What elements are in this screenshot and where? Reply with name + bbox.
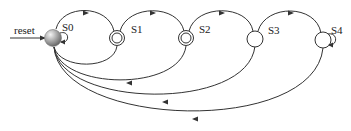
forward-transitions xyxy=(56,10,321,33)
return-arrowheads xyxy=(126,81,198,122)
forward-arrowheads xyxy=(83,11,294,16)
return-transitions xyxy=(54,46,323,111)
state-s1 xyxy=(110,31,125,46)
state-s4-label: S4 xyxy=(331,24,343,36)
reset-label: reset xyxy=(14,24,35,36)
state-s1-label: S1 xyxy=(131,23,143,35)
state-s0-label: S0 xyxy=(62,21,74,33)
state-s3 xyxy=(247,31,263,47)
state-s2 xyxy=(179,31,194,46)
reset-transition xyxy=(10,36,46,41)
state-s2-label: S2 xyxy=(199,23,211,35)
state-s3-label: S3 xyxy=(268,24,280,36)
state-diagram: reset S0 S1 S2 xyxy=(0,0,351,131)
